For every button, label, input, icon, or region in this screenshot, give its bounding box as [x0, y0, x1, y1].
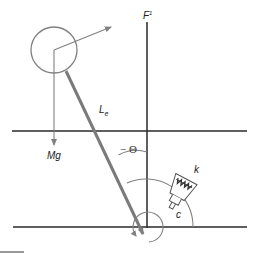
angle-label: − Θ [120, 143, 137, 155]
spring-constant-label: k [194, 164, 200, 175]
weight-label: Mg [47, 150, 61, 161]
length-label: Le [99, 104, 109, 117]
force-arrow [54, 27, 111, 50]
force-label: F1 [143, 10, 152, 21]
pendulum-diagram: F1 Le Mg − Θ k c [0, 0, 258, 253]
spring-damper-element [160, 173, 197, 213]
damping-constant-label: c [176, 209, 181, 220]
